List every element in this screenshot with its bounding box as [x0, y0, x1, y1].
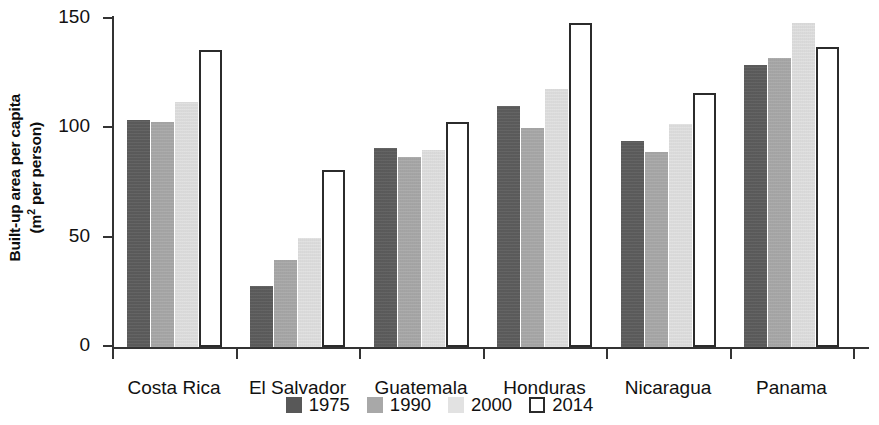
bar[interactable] [768, 58, 791, 347]
bar[interactable] [250, 286, 273, 347]
bar[interactable] [199, 50, 222, 347]
legend-swatch-icon-2000 [448, 397, 464, 413]
bar[interactable] [127, 120, 150, 347]
legend-label: 2014 [552, 396, 593, 415]
x-axis-label-costa-rica: Costa Rica [128, 378, 221, 397]
y-axis-title-line2: (m2 per person) [25, 94, 46, 261]
y-tick-100: 100 [103, 126, 112, 128]
x-tick [853, 349, 855, 359]
bar[interactable] [744, 65, 767, 347]
legend-label: 1990 [390, 396, 431, 415]
bar-group [621, 16, 716, 347]
bar-group [250, 16, 345, 347]
legend-item-1975[interactable]: 1975 [286, 396, 350, 415]
y-axis-line [112, 16, 114, 349]
y-axis-unit-suffix: per person) [28, 122, 45, 209]
bar-chart-figure: Built-up area per capita (m2 per person)… [0, 0, 879, 425]
x-tick [236, 349, 238, 359]
x-tick [483, 349, 485, 359]
legend-item-2000[interactable]: 2000 [448, 396, 512, 415]
y-axis-unit-prefix: (m [28, 215, 45, 234]
legend-label: 2000 [471, 396, 512, 415]
bar[interactable] [621, 141, 644, 347]
y-tick-label-50: 50 [69, 226, 90, 245]
bar-group [497, 16, 592, 347]
bar[interactable] [151, 122, 174, 347]
legend-item-2014[interactable]: 2014 [529, 396, 593, 415]
bar[interactable] [669, 124, 692, 347]
y-axis-title-line1: Built-up area per capita [6, 94, 23, 261]
legend-swatch-icon-1975 [286, 397, 302, 413]
x-tick [359, 349, 361, 359]
bar[interactable] [521, 128, 544, 347]
bar[interactable] [497, 106, 520, 347]
legend-item-1990[interactable]: 1990 [367, 396, 431, 415]
bar[interactable] [645, 152, 668, 347]
x-tick [112, 349, 114, 359]
y-tick-label-150: 150 [58, 7, 90, 26]
y-tick-label-100: 100 [58, 116, 90, 135]
bar[interactable] [374, 148, 397, 347]
bar[interactable] [298, 238, 321, 347]
bar[interactable] [569, 23, 592, 347]
legend-label: 1975 [309, 396, 350, 415]
y-axis-title: Built-up area per capita (m2 per person) [0, 0, 52, 356]
bar[interactable] [792, 23, 815, 347]
x-tick [730, 349, 732, 359]
bar[interactable] [816, 47, 839, 347]
bar[interactable] [545, 89, 568, 347]
bar-group [127, 16, 222, 347]
bar[interactable] [322, 170, 345, 347]
y-tick-0: 0 [103, 345, 112, 347]
plot-area: 050100150 Costa RicaEl SalvadorGuatemala… [112, 16, 869, 348]
x-axis-label-nicaragua: Nicaragua [625, 378, 712, 397]
y-tick-label-0: 0 [79, 335, 90, 354]
chart-legend: 1975199020002014 [0, 396, 879, 415]
x-axis-label-panama: Panama [756, 378, 827, 397]
bar[interactable] [422, 150, 445, 347]
x-axis-line [112, 347, 869, 349]
bar[interactable] [175, 102, 198, 347]
y-tick-50: 50 [103, 236, 112, 238]
bar[interactable] [446, 122, 469, 347]
bar[interactable] [274, 260, 297, 347]
x-tick [606, 349, 608, 359]
bar-group [374, 16, 469, 347]
bar-group [744, 16, 839, 347]
bar[interactable] [693, 93, 716, 347]
y-axis-unit-exponent: 2 [25, 210, 37, 216]
legend-swatch-icon-1990 [367, 397, 383, 413]
bar[interactable] [398, 157, 421, 347]
legend-swatch-icon-2014 [529, 397, 545, 413]
y-tick-150: 150 [103, 17, 112, 19]
